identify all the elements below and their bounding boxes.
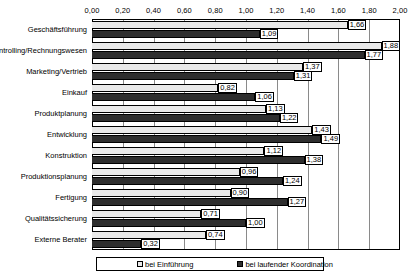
legend-label-einfuehrung: bei Einführung [145,260,193,269]
bar-koordination [92,114,280,122]
bar-value-label: 0,90 [231,188,250,198]
category-label: Einkauf [62,88,87,97]
x-axis-tick-labels: 0,000,200,400,600,801,001,201,401,601,80… [0,6,416,18]
category-label: Geschäftsführung [28,25,87,34]
y-axis-category-labels: GeschäftsführungControlling/Rechnungswes… [0,19,90,250]
bar-value-label: 1,77 [365,50,384,60]
bar-einfuehrung [92,84,218,92]
bar-einfuehrung [92,42,382,50]
x-tick-label: 2,00 [393,6,408,15]
bar-koordination [92,156,305,164]
category-label: Entwicklung [47,130,87,139]
x-tick-label: 1,00 [239,6,254,15]
bar-value-label: 1,38 [305,155,324,165]
bar-value-label: 1,12 [264,146,283,156]
x-tick-label: 0,60 [177,6,192,15]
category-label: Controlling/Rechnungswesen [0,46,87,55]
bar-koordination [92,219,246,227]
chart-legend: bei Einführung bei laufender Koordinatio… [96,257,324,271]
bar-value-label: 1,31 [294,71,313,81]
legend-entry-koordination: bei laufender Koordination [237,260,333,269]
bar-value-label: 1,66 [348,20,367,30]
bar-value-label: 0,74 [206,230,225,240]
bar-einfuehrung [92,168,240,176]
category-label: Qualitätssicherung [25,214,87,223]
bar-einfuehrung [92,105,266,113]
legend-entry-einfuehrung: bei Einführung [137,260,193,269]
legend-label-koordination: bei laufender Koordination [245,260,333,269]
bar-value-label: 0,82 [218,83,237,93]
bar-value-label: 1,09 [260,29,279,39]
x-tick-label: 0,20 [115,6,130,15]
category-label: Marketing/Vertrieb [26,67,87,76]
x-tick-label: 0,40 [146,6,161,15]
bar-value-label: 1,49 [321,134,340,144]
bar-value-label: 1,22 [280,113,299,123]
bar-koordination [92,51,365,59]
category-label: Fertigung [55,193,87,202]
bar-einfuehrung [92,21,348,29]
x-tick-label: 1,60 [331,6,346,15]
bar-einfuehrung [92,210,201,218]
category-label: Konstruktion [45,151,87,160]
bar-koordination [92,135,321,143]
bar-value-label: 1,27 [288,197,307,207]
bar-einfuehrung [92,189,231,197]
x-tick-label: 0,00 [85,6,100,15]
bar-value-label: 1,00 [246,218,265,228]
bar-einfuehrung [92,63,303,71]
legend-swatch-dark-icon [237,261,243,267]
bar-koordination [92,240,141,248]
bar-value-label: 1,88 [382,41,401,51]
category-label: Produktionsplanung [21,172,87,181]
x-tick-label: 1,80 [362,6,377,15]
category-label: Produktplanung [34,109,87,118]
x-tick-label: 1,40 [300,6,315,15]
bar-chart: 0,000,200,400,600,801,001,201,401,601,80… [0,0,416,277]
bar-koordination [92,177,283,185]
bar-einfuehrung [92,126,312,134]
bar-value-label: 0,96 [240,167,259,177]
bar-value-label: 1,06 [255,92,274,102]
legend-swatch-light-icon [137,261,143,267]
bar-value-label: 0,32 [141,239,160,249]
category-label: Externe Berater [34,235,87,244]
x-tick-label: 0,80 [208,6,223,15]
bars-layer: 1,661,091,881,771,371,310,821,061,131,22… [92,19,400,250]
bar-koordination [92,93,255,101]
bar-koordination [92,72,294,80]
bar-einfuehrung [92,147,264,155]
bar-value-label: 1,24 [283,176,302,186]
bar-koordination [92,30,260,38]
bar-koordination [92,198,288,206]
bar-value-label: 0,71 [201,209,220,219]
x-tick-label: 1,20 [269,6,284,15]
